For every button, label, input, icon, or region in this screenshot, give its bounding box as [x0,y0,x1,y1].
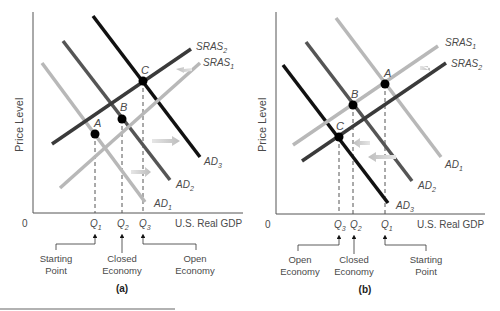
open-economy-label: OpenEconomy [175,253,215,276]
point-b [118,115,127,124]
ad-shift-arrow-upper [152,136,180,146]
ad1-label: AD1 [153,198,172,211]
origin-label: 0 [265,219,271,230]
closed-economy-label: ClosedEconomy [102,253,142,276]
panel-b: Price Level 0 U.S. Real GDP A B C SRAS1 … [256,12,485,295]
panel-b-caption: (b) [359,284,372,295]
starting-point-label: StartingPoint [40,253,73,276]
point-a-label: A [383,67,391,79]
x-axis-label: U.S. Real GDP [417,219,485,230]
point-b [349,101,358,110]
sras1-label: SRAS1 [203,57,234,70]
ad2-label: AD2 [175,179,194,192]
economics-diagram: Price Level 0 U.S. Real GDP A B C SRAS2 … [0,0,500,311]
ad3-label: AD3 [203,156,222,169]
q3-label: Q3 [334,219,346,232]
ad3-curve [283,65,388,203]
starting-point-label: StartingPoint [410,254,443,277]
point-b-label: B [120,101,127,113]
point-a [91,130,100,139]
starting-point-pointer [56,236,95,250]
starting-point-pointer [385,237,426,251]
sras1-label: SRAS1 [445,37,476,50]
point-c [335,133,344,142]
ad-shift-arrow-lower [353,138,370,148]
closed-economy-label: ClosedEconomy [334,254,374,277]
point-b-label: B [351,88,358,100]
q1-label: Q1 [90,218,102,231]
sras2-label: SRAS2 [451,58,482,71]
q2-label: Q2 [117,218,129,231]
y-axis-label: Price Level [13,98,25,152]
ad3-curve [93,16,200,157]
q1-label: Q1 [381,219,393,232]
open-economy-label: OpenEconomy [280,254,320,277]
point-c-label: C [141,64,149,76]
open-economy-pointer [143,236,196,250]
sras2-label: SRAS2 [196,41,227,54]
point-a-label: A [93,117,101,129]
sras-shift-arrow [420,66,430,71]
x-axis-label: U.S. Real GDP [175,218,243,229]
open-economy-pointer [298,237,339,251]
origin-label: 0 [22,218,28,229]
q3-label: Q3 [139,218,151,231]
q2-label: Q2 [350,219,362,232]
ad2-curve [306,42,412,181]
point-c-label: C [336,120,344,132]
panel-a: Price Level 0 U.S. Real GDP A B C SRAS2 … [13,12,243,294]
point-a [381,80,390,89]
point-c [139,77,148,86]
sras2-curve [302,63,446,161]
panel-a-caption: (a) [116,283,128,294]
ad-shift-arrow-lower [131,167,151,177]
ad3-label: AD3 [395,200,414,213]
sras1-curve [293,46,438,145]
y-axis-label: Price Level [256,98,268,152]
ad2-label: AD2 [417,180,436,193]
ad1-label: AD1 [444,159,463,172]
